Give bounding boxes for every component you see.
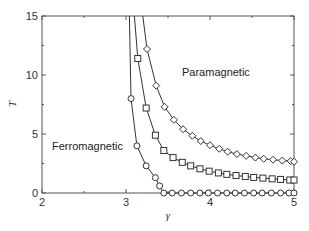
circle-marker xyxy=(259,190,265,196)
circle-marker xyxy=(161,190,167,196)
square-marker xyxy=(135,55,141,61)
circle-marker xyxy=(157,183,163,189)
square-marker xyxy=(269,176,275,182)
square-marker xyxy=(242,173,248,179)
square-marker xyxy=(188,163,194,169)
x-tick-label-5: 5 xyxy=(291,196,297,208)
square-marker xyxy=(179,159,185,165)
diamond-marker xyxy=(161,103,168,110)
square-marker xyxy=(291,177,297,183)
y-tick-label-0: 0 xyxy=(32,187,38,199)
diamond-marker xyxy=(216,145,223,152)
diamond-marker xyxy=(224,148,231,155)
circle-marker xyxy=(224,190,230,196)
x-tick-label-3: 3 xyxy=(123,196,129,208)
x-axis-title: γ xyxy=(166,209,171,221)
square-marker xyxy=(251,174,257,180)
circle-marker xyxy=(278,190,284,196)
y-tick-label-5: 5 xyxy=(32,128,38,140)
square-marker xyxy=(152,132,158,138)
circle-marker xyxy=(197,190,203,196)
axis-ticks xyxy=(42,16,294,193)
circle-marker xyxy=(232,190,238,196)
circle-marker xyxy=(152,175,158,181)
circle-marker xyxy=(188,190,194,196)
diamond-marker xyxy=(144,46,151,53)
diamond-marker xyxy=(252,154,259,161)
square-marker xyxy=(233,173,239,179)
phase-diagram-chart: Ferromagnetic Paramagnetic γ T 2 3 4 5 0… xyxy=(0,0,309,231)
square-marker xyxy=(260,175,266,181)
paramagnetic-label: Paramagnetic xyxy=(182,66,250,78)
circle-marker xyxy=(215,190,221,196)
diamond-marker xyxy=(153,82,160,89)
diamond-marker xyxy=(189,132,196,139)
circle-marker xyxy=(251,190,257,196)
circle-marker xyxy=(241,190,247,196)
square-marker xyxy=(170,155,176,161)
plot-frame xyxy=(42,16,294,193)
circle-marker xyxy=(143,163,149,169)
diamond-marker xyxy=(279,157,286,164)
circle-marker xyxy=(134,143,140,149)
diamond-marker xyxy=(207,142,214,149)
diamond-marker xyxy=(233,151,240,158)
y-tick-label-10: 10 xyxy=(26,69,38,81)
square-marker xyxy=(161,148,167,154)
circle-marker xyxy=(128,96,134,102)
data-series xyxy=(128,16,297,196)
ferromagnetic-label: Ferromagnetic xyxy=(52,140,123,152)
y-axis-title: T xyxy=(6,100,18,107)
x-tick-label-2: 2 xyxy=(39,196,45,208)
circle-marker xyxy=(178,190,184,196)
square-marker xyxy=(197,166,203,172)
diamond-marker xyxy=(270,156,277,163)
square-marker xyxy=(224,171,230,177)
diamond-marker xyxy=(260,155,267,162)
y-tick-label-15: 15 xyxy=(26,10,38,22)
diamond-marker xyxy=(197,138,204,145)
circle-marker xyxy=(268,190,274,196)
square-marker xyxy=(206,168,212,174)
x-tick-label-4: 4 xyxy=(207,196,213,208)
square-marker xyxy=(215,170,221,176)
diamond-marker xyxy=(243,152,250,159)
square-marker xyxy=(143,105,149,111)
circle-marker xyxy=(169,190,175,196)
square-marker xyxy=(278,176,284,182)
series-diamonds xyxy=(143,16,298,165)
